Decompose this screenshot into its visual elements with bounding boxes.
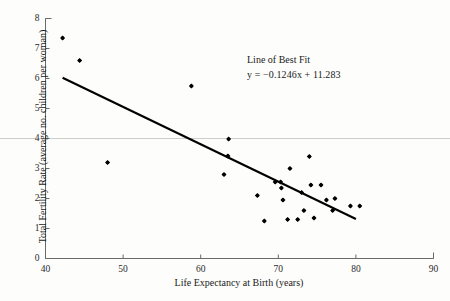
plot-area (0, 0, 450, 301)
x-tick-40: 40 (31, 264, 61, 274)
x-tick-80: 80 (341, 264, 371, 274)
x-tick-60: 60 (186, 264, 216, 274)
x-tick-70: 70 (263, 264, 293, 274)
y-axis-title: Total Fertility Rate (average no. childr… (37, 12, 48, 262)
trendline-annotation-equation: y = −0.1246x + 11.283 (247, 67, 341, 82)
trendline-annotation-title: Line of Best Fit (247, 52, 341, 67)
trendline-annotation: Line of Best Fit y = −0.1246x + 11.283 (247, 52, 341, 82)
scatter-chart: 876543210 405060708090 Total Fertility R… (0, 0, 450, 301)
trendline (63, 78, 356, 219)
x-axis-title: Life Expectancy at Birth (years) (45, 277, 433, 288)
x-tick-90: 90 (419, 264, 449, 274)
x-tick-50: 50 (108, 264, 138, 274)
